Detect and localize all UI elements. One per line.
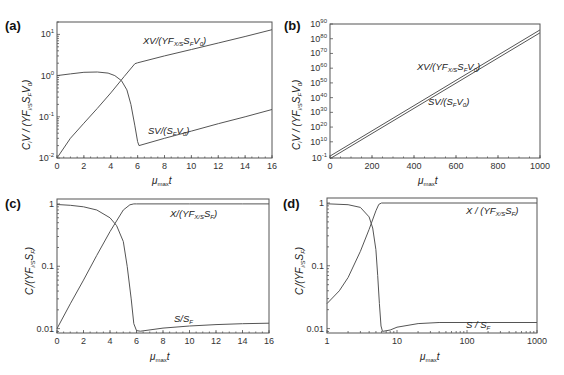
svg-text:1060: 1060	[310, 62, 327, 73]
svg-text:10: 10	[186, 161, 196, 171]
svg-text:100: 100	[459, 336, 474, 346]
panel-d: (d) 11010010000.010.11 X / (YFX/SSF) S /…	[283, 196, 547, 363]
svg-text:6: 6	[135, 161, 140, 171]
axis-ticks-d: 11010010000.010.11	[306, 198, 547, 346]
svg-text:10-1: 10-1	[312, 152, 328, 163]
svg-text:1: 1	[49, 199, 54, 209]
svg-text:0.01: 0.01	[306, 324, 324, 334]
svg-text:0.01: 0.01	[36, 324, 54, 334]
svg-text:1000: 1000	[530, 161, 550, 171]
svg-text:16: 16	[264, 336, 274, 346]
x-axis-title-d: μmaxt	[419, 351, 441, 363]
series-x-line	[327, 203, 537, 304]
axis-ticks-b: 0200400600800100010-11010102010301040105…	[310, 18, 550, 171]
svg-text:1090: 1090	[310, 18, 327, 29]
y-axis-title-b: CiV / (YFi/SSFV0)	[291, 80, 303, 150]
svg-text:4: 4	[108, 161, 113, 171]
panel-label-b: (b)	[284, 18, 301, 33]
plot-frame-b	[330, 24, 540, 158]
panel-label-a: (a)	[5, 18, 21, 33]
svg-text:0: 0	[327, 161, 332, 171]
panel-c: (c) 02468101214160.010.11 X/(YFX/SSF) S/…	[5, 196, 274, 363]
series-label-xv: XV/(YFX/SSFV0)	[416, 61, 480, 73]
svg-text:14: 14	[237, 336, 247, 346]
svg-text:1080: 1080	[310, 33, 327, 44]
svg-text:12: 12	[213, 161, 223, 171]
series-xv-line	[330, 30, 540, 156]
svg-text:1000: 1000	[527, 336, 547, 346]
series-label-s: S / SF	[466, 319, 491, 331]
svg-text:100: 100	[41, 70, 55, 81]
svg-text:8: 8	[162, 161, 167, 171]
svg-text:1040: 1040	[310, 92, 327, 103]
panel-b: (b) 0200400600800100010-1101010201030104…	[284, 18, 550, 187]
svg-text:200: 200	[364, 161, 379, 171]
svg-text:1050: 1050	[310, 77, 327, 88]
series-label-s: S/SF	[174, 313, 193, 325]
x-axis-title-b: μmaxt	[417, 175, 439, 187]
series-label-sv: SV/(SFV0)	[428, 96, 469, 108]
y-axis-title-a: CiV / (YFi/SSFV0)	[21, 80, 33, 150]
svg-text:600: 600	[448, 161, 463, 171]
x-axis-title-a: μmaxt	[151, 175, 173, 187]
series-s-line	[327, 204, 537, 332]
svg-text:16: 16	[267, 161, 277, 171]
plot-frame-c	[57, 199, 269, 333]
svg-text:2: 2	[81, 161, 86, 171]
panel-label-c: (c)	[5, 196, 21, 211]
svg-text:0: 0	[54, 336, 59, 346]
svg-text:0.1: 0.1	[41, 261, 54, 271]
svg-text:12: 12	[211, 336, 221, 346]
series-label-sv: SV/(SFV0)	[148, 125, 189, 137]
y-axis-title-d: Ci/(YFi/SSF)	[294, 247, 306, 295]
svg-text:10-2: 10-2	[39, 152, 55, 163]
svg-text:4: 4	[107, 336, 112, 346]
series-label-x: X/(YFX/SSF)	[169, 208, 217, 220]
series-label-x: X / (YFX/SSF)	[465, 205, 518, 217]
svg-text:10: 10	[184, 336, 194, 346]
series-s-line	[57, 205, 269, 332]
svg-text:10: 10	[392, 336, 402, 346]
series-label-xv: XV/(YFX/SSFV0)	[142, 35, 206, 47]
svg-text:800: 800	[490, 161, 505, 171]
svg-text:1070: 1070	[310, 47, 327, 58]
svg-text:0: 0	[54, 161, 59, 171]
panel-label-d: (d)	[283, 196, 300, 211]
svg-text:400: 400	[406, 161, 421, 171]
svg-text:1: 1	[319, 198, 324, 208]
panel-a: (a) 024681012141610-210-1100101 XV/(YFX/…	[5, 18, 277, 187]
svg-text:1: 1	[324, 336, 329, 346]
figure: (a) 024681012141610-210-1100101 XV/(YFX/…	[0, 0, 564, 375]
svg-text:1010: 1010	[310, 136, 327, 147]
svg-text:6: 6	[134, 336, 139, 346]
svg-text:8: 8	[160, 336, 165, 346]
svg-text:1020: 1020	[310, 121, 327, 132]
svg-text:10-1: 10-1	[39, 111, 55, 122]
plot-frame-d	[327, 198, 537, 333]
svg-text:0.1: 0.1	[311, 261, 324, 271]
svg-text:1030: 1030	[310, 106, 327, 117]
series-x-line	[57, 204, 269, 329]
svg-text:14: 14	[240, 161, 250, 171]
svg-text:2: 2	[81, 336, 86, 346]
x-axis-title-c: μmaxt	[149, 351, 171, 363]
svg-text:101: 101	[41, 28, 55, 39]
y-axis-title-c: Ci/(YFi/SSF)	[24, 247, 36, 295]
